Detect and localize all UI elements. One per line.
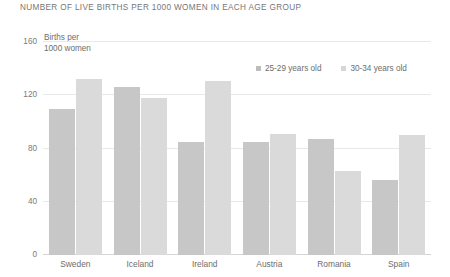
bar[interactable]	[335, 171, 361, 255]
bar-group	[366, 42, 431, 255]
bar[interactable]	[205, 81, 231, 255]
x-axis-tick-label: Ireland	[172, 259, 237, 269]
bar[interactable]	[114, 87, 140, 255]
bar[interactable]	[76, 79, 102, 255]
bar[interactable]	[141, 98, 167, 255]
bar[interactable]	[372, 180, 398, 255]
y-axis-tick-label: 160	[23, 37, 37, 46]
bar[interactable]	[308, 139, 334, 255]
bar-groups	[43, 42, 431, 255]
bar-group	[43, 42, 108, 255]
bar-group	[237, 42, 302, 255]
bar[interactable]	[270, 134, 296, 255]
y-axis-tick-label: 80	[28, 143, 37, 152]
bar[interactable]	[49, 109, 75, 255]
bar[interactable]	[178, 142, 204, 255]
bar-group	[172, 42, 237, 255]
x-axis-labels: SwedenIcelandIrelandAustriaRomaniaSpain	[43, 259, 431, 269]
y-axis-tick-label: 120	[23, 90, 37, 99]
plot-area: 04080120160	[43, 42, 431, 255]
bar-group	[302, 42, 367, 255]
chart-title: NUMBER OF LIVE BIRTHS PER 1000 WOMEN IN …	[20, 3, 301, 12]
bar-chart: NUMBER OF LIVE BIRTHS PER 1000 WOMEN IN …	[0, 0, 450, 277]
y-axis-tick-label: 0	[32, 250, 37, 259]
bar[interactable]	[399, 135, 425, 255]
x-axis-tick-label: Romania	[302, 259, 367, 269]
x-axis-tick-label: Spain	[366, 259, 431, 269]
x-axis-tick-label: Iceland	[108, 259, 173, 269]
x-axis-tick-label: Sweden	[43, 259, 108, 269]
x-axis-tick-label: Austria	[237, 259, 302, 269]
bar-group	[108, 42, 173, 255]
y-axis-tick-label: 40	[28, 196, 37, 205]
bar[interactable]	[243, 142, 269, 255]
